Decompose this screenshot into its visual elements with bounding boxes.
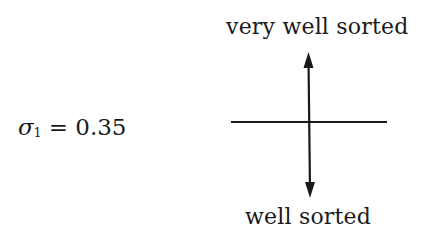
bottom-label-well-sorted: well sorted [245, 206, 371, 228]
vertical-axis-line [309, 60, 311, 190]
arrow-down-icon [305, 182, 315, 198]
arrow-up-icon [304, 52, 314, 68]
sorting-axis-diagram [0, 0, 437, 251]
